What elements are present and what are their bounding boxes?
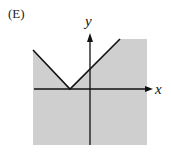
y-axis-label: y	[83, 13, 92, 29]
y-axis-arrow-icon	[87, 33, 93, 42]
x-axis-label: x	[154, 81, 162, 97]
x-axis-arrow-icon	[145, 86, 153, 92]
graph: x y	[0, 0, 171, 153]
